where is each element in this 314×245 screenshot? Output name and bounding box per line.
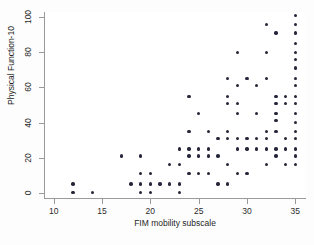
data-point: [139, 182, 142, 185]
y-tick-mark: [39, 17, 44, 18]
data-point: [265, 51, 268, 54]
x-tick-label: 25: [194, 206, 203, 216]
data-point: [129, 182, 132, 185]
y-tick-mark: [39, 123, 44, 124]
data-point: [120, 154, 123, 157]
data-point: [149, 182, 152, 185]
data-point: [294, 130, 297, 133]
data-point: [207, 147, 210, 150]
data-point: [139, 154, 142, 157]
data-point: [236, 51, 239, 54]
data-point: [265, 147, 268, 150]
data-point: [294, 154, 297, 157]
x-tick-label: 30: [242, 206, 251, 216]
y-tick-label: 100: [23, 10, 33, 24]
data-point: [294, 102, 297, 105]
data-point: [158, 182, 161, 185]
data-point: [187, 147, 190, 150]
data-point: [255, 147, 258, 150]
data-point: [294, 147, 297, 150]
plot-area: [44, 12, 305, 198]
data-point: [245, 137, 248, 140]
data-point: [294, 51, 297, 54]
data-point: [294, 31, 297, 34]
y-tick-label: 20: [23, 153, 33, 162]
data-point: [236, 137, 239, 140]
data-point: [294, 95, 297, 98]
data-point: [168, 182, 171, 185]
x-tick-mark: [54, 199, 55, 204]
data-point: [197, 147, 200, 150]
x-tick-mark: [247, 199, 248, 204]
data-point: [178, 182, 181, 185]
data-point: [294, 66, 297, 69]
data-point: [216, 137, 219, 140]
data-point: [216, 154, 219, 157]
data-point: [265, 130, 268, 133]
data-point: [187, 95, 190, 98]
x-tick-label: 10: [49, 206, 58, 216]
y-tick-mark: [39, 87, 44, 88]
data-point: [187, 172, 190, 175]
data-point: [294, 58, 297, 61]
data-point: [178, 147, 181, 150]
x-tick-mark: [102, 199, 103, 204]
data-point: [274, 95, 277, 98]
x-tick-label: 15: [97, 206, 106, 216]
y-tick-mark: [39, 52, 44, 53]
data-point: [274, 102, 277, 105]
data-point: [207, 130, 210, 133]
data-point: [274, 31, 277, 34]
data-point: [265, 137, 268, 140]
data-point: [274, 154, 277, 157]
data-point: [197, 154, 200, 157]
data-point: [294, 137, 297, 140]
data-point: [265, 23, 268, 26]
x-axis-spine: [44, 198, 306, 199]
data-point: [284, 147, 287, 150]
data-point: [294, 23, 297, 26]
data-point: [236, 147, 239, 150]
y-tick-label: 80: [23, 48, 33, 57]
data-point: [245, 147, 248, 150]
data-point: [71, 182, 74, 185]
data-point: [274, 130, 277, 133]
data-point: [236, 102, 239, 105]
x-tick-mark: [150, 199, 151, 204]
data-point: [187, 130, 190, 133]
x-tick-label: 35: [291, 206, 300, 216]
data-point: [245, 172, 248, 175]
y-axis-spine: [44, 12, 45, 199]
y-tick-label: 60: [23, 83, 33, 92]
x-tick-mark: [199, 199, 200, 204]
x-tick-label: 20: [146, 206, 155, 216]
y-tick-label: 40: [23, 118, 33, 127]
data-point: [216, 182, 219, 185]
y-tick-mark: [39, 193, 44, 194]
y-axis-title: Physical Function-10: [6, 26, 16, 105]
scatter-plot-figure: 020406080100 101520253035 Physical Funct…: [0, 0, 314, 245]
data-point: [187, 154, 190, 157]
data-point: [226, 182, 229, 185]
data-point: [207, 154, 210, 157]
x-axis-title: FIM mobility subscale: [134, 218, 216, 228]
y-tick-label: 0: [23, 190, 33, 195]
x-tick-mark: [295, 199, 296, 204]
data-point: [274, 147, 277, 150]
y-tick-mark: [39, 158, 44, 159]
